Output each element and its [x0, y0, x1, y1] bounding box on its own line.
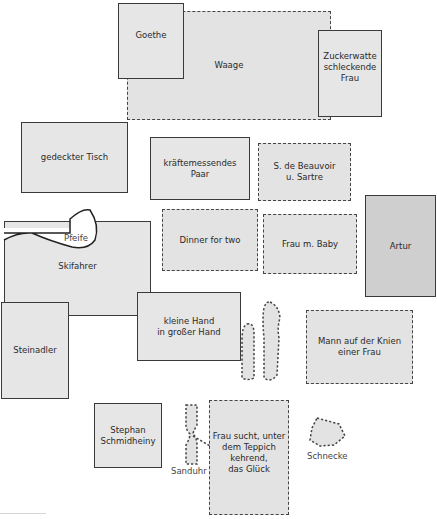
cut-off-caption — [0, 513, 50, 519]
schnecke-label: Schnecke — [307, 451, 348, 461]
schnecke-shape — [0, 0, 437, 519]
